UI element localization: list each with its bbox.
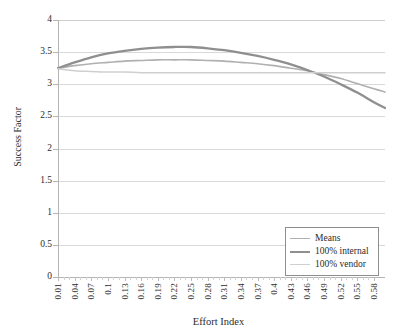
x-axis-title: Effort Index (0, 316, 403, 327)
chart-figure: 43.532.521.510.50 0.010.040.070.10.130.1… (0, 0, 403, 335)
legend-label: 100% vendor (315, 259, 366, 270)
legend-item: 100% vendor (290, 258, 373, 271)
legend-label: Means (315, 233, 340, 244)
series-line (58, 60, 385, 92)
series-lines (0, 0, 403, 335)
legend-item: Means (290, 232, 373, 245)
y-axis-title: Success Factor (12, 107, 26, 167)
legend-item: 100% internal (290, 245, 373, 258)
legend-label: 100% internal (315, 246, 369, 257)
legend-line-swatch (290, 264, 310, 265)
chart-legend: Means100% internal100% vendor (285, 227, 379, 276)
series-line (58, 69, 385, 73)
legend-line-swatch (290, 238, 310, 239)
legend-line-swatch (290, 251, 310, 253)
